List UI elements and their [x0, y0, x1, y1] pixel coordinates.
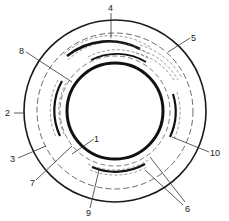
outer-ring [24, 20, 206, 202]
leader-line-10 [172, 137, 209, 152]
outer-dashed-ring [37, 33, 193, 189]
label-10: 10 [210, 148, 220, 158]
label-8: 8 [19, 46, 24, 56]
inner-core-ring [67, 63, 163, 159]
segment-bottom [88, 160, 148, 175]
segment-left [50, 80, 66, 137]
label-7: 7 [30, 178, 35, 188]
ring-cross-section-diagram: 1 2 3 4 5 6 7 8 9 10 [0, 0, 229, 221]
inner-dashed-ring [60, 56, 170, 166]
segment-top-inner [88, 50, 149, 62]
label-4: 4 [108, 3, 113, 13]
label-2: 2 [5, 108, 10, 118]
label-5: 5 [191, 33, 196, 43]
label-6: 6 [185, 204, 190, 214]
segment-right [170, 92, 180, 139]
segment-top-right [136, 45, 182, 80]
label-9: 9 [86, 208, 91, 218]
label-1: 1 [94, 134, 99, 144]
leader-line-7 [36, 146, 72, 180]
leader-line-9 [90, 170, 99, 208]
leader-line-8 [26, 52, 72, 82]
label-3: 3 [10, 154, 15, 164]
